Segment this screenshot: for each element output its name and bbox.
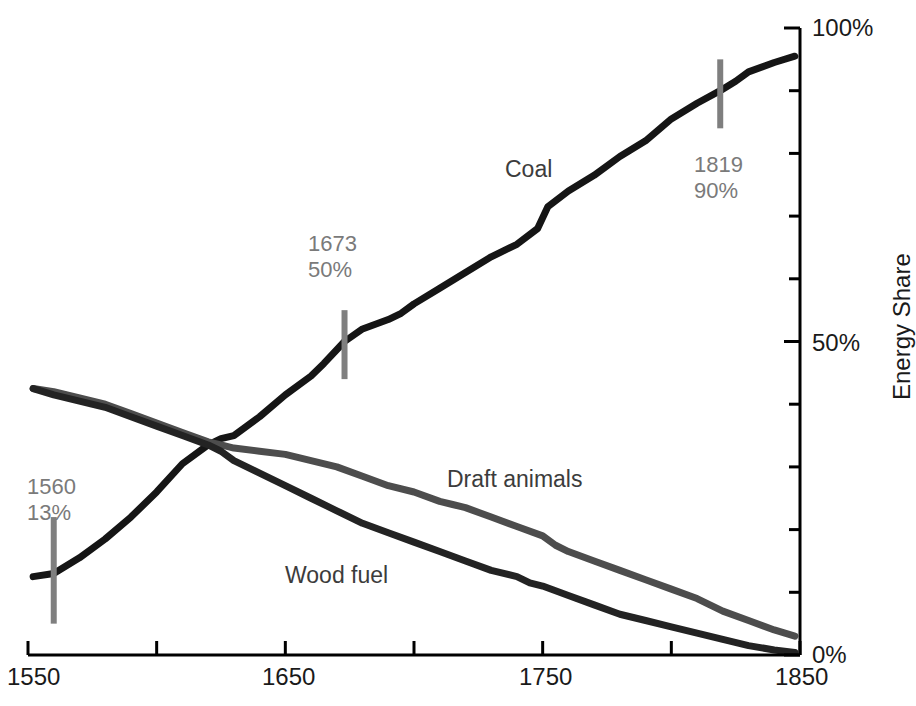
annotation-markers-group	[54, 59, 721, 623]
series-label-wood-fuel: Wood fuel	[285, 562, 388, 589]
series-line-coal	[33, 56, 795, 576]
annotation-1560-value: 13%	[27, 500, 76, 526]
series-label-draft-animals: Draft animals	[447, 466, 582, 493]
y-axis-title: Energy Share	[888, 253, 916, 400]
annotation-1560: 1560 13%	[27, 474, 76, 526]
x-tick-label-1550: 1550	[7, 663, 60, 691]
y-tick-label-100: 100%	[812, 14, 873, 42]
annotation-1819-year: 1819	[694, 152, 743, 178]
annotation-1819-value: 90%	[694, 178, 743, 204]
annotation-1673-value: 50%	[308, 257, 357, 283]
series-line-wood-fuel	[33, 389, 795, 653]
series-label-coal: Coal	[505, 156, 552, 183]
annotation-1673: 1673 50%	[308, 231, 357, 283]
x-tick-label-1650: 1650	[262, 663, 315, 691]
annotation-1560-year: 1560	[27, 474, 76, 500]
annotation-1819: 1819 90%	[694, 152, 743, 204]
y-tick-label-50: 50%	[812, 329, 860, 357]
x-tick-label-1750: 1750	[519, 663, 572, 691]
annotation-1673-year: 1673	[308, 231, 357, 257]
series-lines-group	[33, 56, 795, 652]
axes-group	[28, 28, 800, 655]
y-tick-label-0: 0%	[812, 641, 847, 669]
